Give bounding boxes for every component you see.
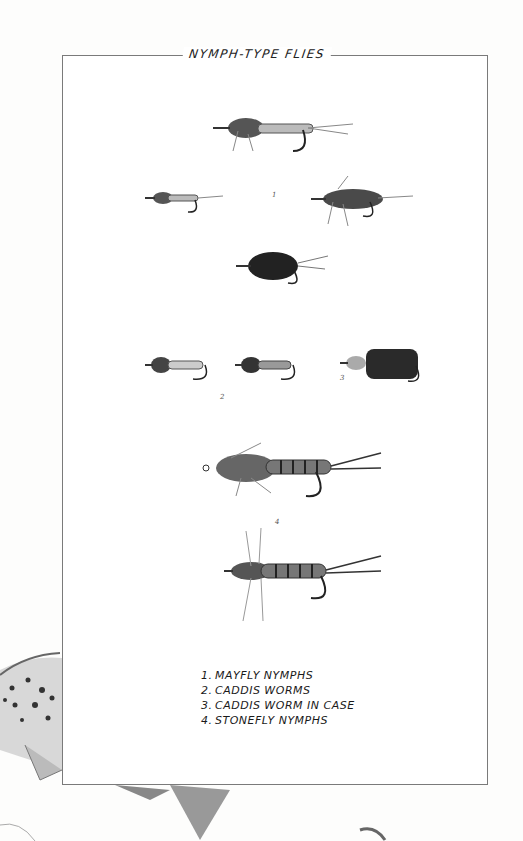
mayfly-nymph-dark-illustration — [233, 241, 333, 296]
mayfly-nymph-medium-illustration — [308, 174, 418, 229]
legend-item-stonefly-nymphs: 4.STONEFLY NYMPHS — [201, 713, 355, 728]
caddis-worm-dark-illustration — [233, 351, 303, 386]
figure-number-4: 4 — [275, 518, 279, 526]
figure-number-1: 1 — [272, 191, 276, 199]
caddis-worm-light-illustration — [143, 351, 213, 386]
stonefly-nymph-upper-illustration — [201, 438, 386, 503]
legend-item-caddis-worms: 2.CADDIS WORMS — [201, 683, 355, 698]
legend-item-mayfly-nymphs: 1.MAYFLY NYMPHS — [201, 668, 355, 683]
caddis-worm-in-case-illustration — [338, 341, 428, 391]
mayfly-nymph-large-illustration — [208, 106, 358, 161]
figure-number-2: 2 — [220, 393, 224, 401]
figure-number-3: 3 — [340, 374, 344, 382]
mayfly-nymph-small-illustration — [143, 186, 228, 216]
stonefly-nymph-lower-illustration — [221, 526, 386, 626]
legend-list: 1.MAYFLY NYMPHS 2.CADDIS WORMS 3.CADDIS … — [201, 668, 355, 728]
illustration-plate: NYMPH-TYPE FLIES 1 — [62, 55, 488, 785]
plate-title: NYMPH-TYPE FLIES — [182, 47, 332, 61]
legend-item-caddis-worm-in-case: 3.CADDIS WORM IN CASE — [201, 698, 355, 713]
